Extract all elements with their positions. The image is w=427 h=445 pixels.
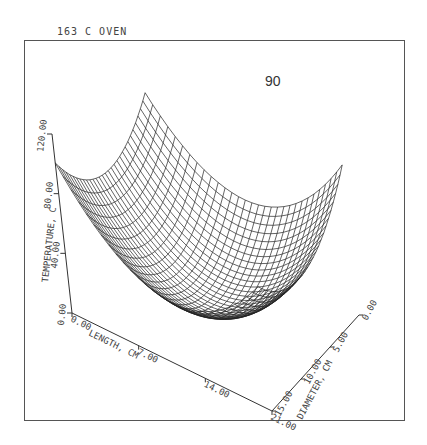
grid-line-diameter bbox=[143, 101, 340, 216]
length-tick-label: 21.00 bbox=[269, 412, 298, 433]
z-tick-label: 0.00 bbox=[56, 303, 68, 326]
grid-line-length bbox=[217, 201, 302, 318]
grid-line-length bbox=[211, 204, 297, 320]
length-tick-label: 0.00 bbox=[69, 314, 93, 332]
grid-line-diameter bbox=[145, 93, 342, 207]
grid-line-length bbox=[247, 179, 332, 303]
surface-plot: 0.0040.0080.00120.00TEMPERATURE, C0.007.… bbox=[0, 0, 427, 445]
grid-line-diameter bbox=[76, 178, 278, 320]
grid-line-diameter bbox=[140, 109, 338, 226]
wireframe-surface bbox=[55, 93, 342, 320]
diameter-tick-label: 5.00 bbox=[331, 330, 350, 354]
z-tick-label: 80.00 bbox=[42, 181, 55, 209]
grid-line-length bbox=[71, 116, 161, 206]
grid-line-diameter bbox=[108, 171, 308, 301]
z-tick-label: 120.00 bbox=[35, 119, 48, 152]
length-tick-label: 7.00 bbox=[136, 346, 160, 364]
grid-line-length bbox=[178, 206, 265, 315]
length-axis bbox=[72, 313, 272, 411]
diameter-tick-label: 0.00 bbox=[360, 298, 379, 322]
length-tick-label: 14.00 bbox=[202, 379, 231, 400]
length-axis-label: LENGTH, CM bbox=[87, 328, 141, 361]
diameter-tick-label: 15.00 bbox=[273, 389, 295, 418]
